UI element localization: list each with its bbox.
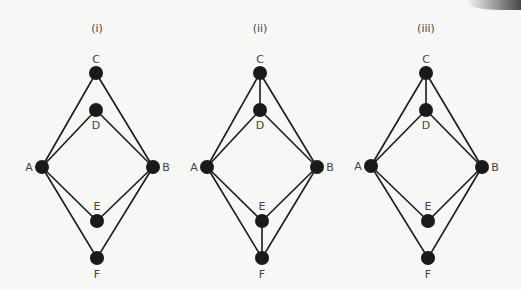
node-label-B: B: [162, 161, 170, 174]
node-label-D: D: [92, 119, 100, 132]
edge-C-B: [96, 73, 153, 167]
figure-stage: (i)CDABEF (ii)CDABEF (iii)CDABEF: [0, 0, 521, 290]
panel-title: (i): [91, 22, 103, 35]
node-F: [90, 251, 104, 265]
node-D: [419, 103, 433, 117]
node-E: [255, 214, 269, 228]
node-E: [421, 214, 435, 228]
node-label-D: D: [256, 119, 264, 132]
node-C: [89, 66, 103, 80]
node-B: [475, 160, 489, 174]
node-B: [310, 160, 324, 174]
node-B: [146, 160, 160, 174]
node-label-E: E: [94, 200, 101, 213]
edge-A-C: [207, 73, 260, 167]
panel-i: (i)CDABEF: [25, 22, 170, 281]
node-C: [419, 66, 433, 80]
node-label-B: B: [326, 161, 334, 174]
node-label-B: B: [491, 161, 499, 174]
panel-ii: (ii)CDABEF: [190, 22, 334, 281]
node-label-F: F: [94, 268, 100, 281]
panel-iii: (iii)CDABEF: [354, 22, 499, 281]
node-label-C: C: [92, 53, 100, 66]
node-A: [200, 160, 214, 174]
node-D: [253, 103, 267, 117]
node-label-C: C: [422, 53, 430, 66]
node-label-F: F: [259, 268, 265, 281]
node-label-C: C: [256, 53, 264, 66]
node-F: [421, 251, 435, 265]
graph-diagrams: (i)CDABEF (ii)CDABEF (iii)CDABEF: [0, 0, 521, 290]
node-label-A: A: [25, 161, 33, 174]
node-label-F: F: [425, 268, 431, 281]
node-A: [364, 159, 378, 173]
node-label-E: E: [259, 200, 266, 213]
node-D: [89, 103, 103, 117]
node-C: [253, 66, 267, 80]
node-label-E: E: [425, 200, 432, 213]
edge-A-C: [42, 73, 96, 167]
node-A: [35, 160, 49, 174]
edge-C-B: [426, 73, 482, 167]
node-label-A: A: [190, 161, 198, 174]
edge-C-B: [260, 73, 317, 167]
panel-title: (ii): [253, 22, 268, 35]
node-F: [255, 251, 269, 265]
node-E: [90, 214, 104, 228]
node-label-D: D: [422, 119, 430, 132]
panel-title: (iii): [417, 22, 435, 35]
node-label-A: A: [354, 160, 362, 173]
